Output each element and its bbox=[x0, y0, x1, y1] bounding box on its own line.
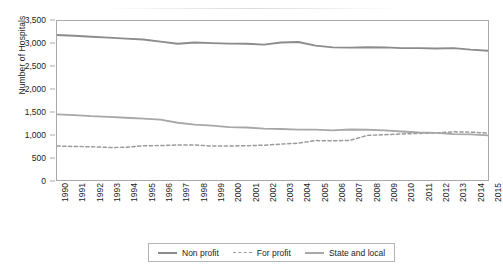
x-tick-label: 1990 bbox=[60, 183, 70, 202]
x-tick-label: 2011 bbox=[424, 183, 434, 201]
legend-label: State and local bbox=[329, 248, 385, 258]
y-tick-label: 1,500 bbox=[0, 107, 46, 117]
x-tick-label: 1993 bbox=[112, 183, 122, 202]
series-line bbox=[57, 35, 488, 51]
y-tick-label: 0 bbox=[0, 176, 46, 186]
y-tick-label: 1,000 bbox=[0, 130, 46, 140]
x-tick-label: 2007 bbox=[354, 183, 364, 202]
y-tick-mark bbox=[50, 20, 55, 21]
scan-artifact bbox=[100, 8, 400, 9]
y-tick-label: 2,500 bbox=[0, 61, 46, 71]
x-tick-label: 2000 bbox=[233, 183, 243, 202]
x-tick-label: 1995 bbox=[147, 183, 157, 202]
y-tick-mark bbox=[50, 181, 55, 182]
x-tick-label: 1999 bbox=[216, 183, 226, 202]
x-tick-label: 2006 bbox=[337, 183, 347, 202]
x-tick-label: 1996 bbox=[164, 183, 174, 202]
x-tick-label: 2001 bbox=[251, 183, 261, 202]
legend-label: Non profit bbox=[182, 248, 219, 258]
x-tick-label: 2015 bbox=[493, 183, 503, 202]
x-axis-ticks: 1990199119921993199419951996199719981999… bbox=[56, 183, 489, 243]
y-tick-mark bbox=[50, 158, 55, 159]
series-line bbox=[57, 114, 488, 135]
x-tick-label: 1997 bbox=[181, 183, 191, 202]
x-tick-label: 1991 bbox=[77, 183, 87, 202]
x-tick-label: 2004 bbox=[302, 183, 312, 202]
y-tick-mark bbox=[50, 66, 55, 67]
legend-swatch-icon bbox=[233, 252, 252, 253]
x-tick-label: 1994 bbox=[129, 183, 139, 202]
x-tick-label: 2008 bbox=[372, 183, 382, 202]
x-tick-label: 2003 bbox=[285, 183, 295, 202]
y-tick-mark bbox=[50, 43, 55, 44]
legend-item[interactable]: State and local bbox=[305, 248, 385, 258]
legend-item[interactable]: For profit bbox=[233, 248, 291, 258]
plot-area bbox=[56, 20, 489, 181]
legend-swatch-icon bbox=[305, 252, 324, 254]
x-tick-label: 2002 bbox=[268, 183, 278, 202]
y-axis-ticks: 05001,0001,5002,0002,5003,0003,500 bbox=[0, 0, 56, 272]
y-tick-label: 500 bbox=[0, 153, 46, 163]
y-tick-mark bbox=[50, 112, 55, 113]
x-tick-label: 2013 bbox=[458, 183, 468, 202]
x-tick-label: 2005 bbox=[320, 183, 330, 202]
x-tick-label: 2012 bbox=[441, 183, 451, 202]
y-tick-mark bbox=[50, 135, 55, 136]
y-tick-label: 3,000 bbox=[0, 38, 46, 48]
x-tick-label: 2014 bbox=[476, 183, 486, 202]
legend-swatch-icon bbox=[158, 252, 177, 254]
x-tick-label: 2009 bbox=[389, 183, 399, 202]
chart-legend: Non profitFor profitState and local bbox=[148, 243, 395, 262]
legend-label: For profit bbox=[257, 248, 291, 258]
series-line bbox=[57, 132, 488, 148]
x-tick-label: 2010 bbox=[406, 183, 416, 202]
legend-item[interactable]: Non profit bbox=[158, 248, 219, 258]
x-tick-label: 1998 bbox=[199, 183, 209, 202]
series-layer bbox=[57, 21, 488, 180]
y-tick-label: 3,500 bbox=[0, 15, 46, 25]
y-tick-mark bbox=[50, 89, 55, 90]
x-tick-label: 1992 bbox=[95, 183, 105, 202]
y-tick-label: 2,000 bbox=[0, 84, 46, 94]
